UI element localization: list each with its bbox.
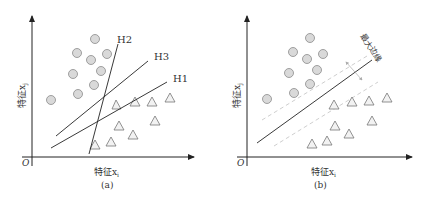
y-axis-label: 特征xj xyxy=(16,83,29,108)
x-axis-label: 特征xi xyxy=(311,166,336,178)
panel-b: 最大边缘 O 特征xi 特征xj (b) xyxy=(231,16,412,190)
circles xyxy=(47,35,112,105)
triangles xyxy=(307,93,392,148)
hyperplanes xyxy=(51,44,167,154)
circles xyxy=(263,34,328,104)
caption-b: (b) xyxy=(314,180,327,190)
origin-label: O xyxy=(237,158,245,168)
caption-a: (a) xyxy=(101,180,113,190)
label-h2: H2 xyxy=(117,34,132,45)
label-h1: H1 xyxy=(173,73,188,84)
margin-label: 最大边缘 xyxy=(358,32,384,64)
origin-label: O xyxy=(22,158,30,168)
label-h3: H3 xyxy=(154,51,169,62)
panel-a: H2 H3 H1 O 特征xi 特征xj (a) xyxy=(16,16,194,190)
x-axis-label: 特征xi xyxy=(94,166,119,178)
y-axis-label: 特征xj xyxy=(231,83,244,108)
svm-diagram: H2 H3 H1 O 特征xi 特征xj (a) 最大边缘 xyxy=(0,0,422,202)
